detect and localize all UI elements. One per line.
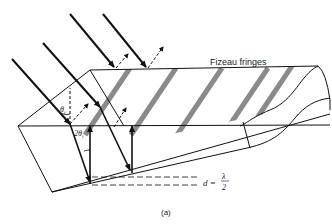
fizeau-wedge-diagram: Fizeau fringes θi 2θi d = λ 2 (a) <box>0 0 332 224</box>
fringes-label: Fizeau fringes <box>210 57 267 67</box>
spacing-numerator: λ <box>221 172 226 181</box>
figure-caption: (a) <box>161 208 171 217</box>
theta-i-label: θi <box>60 105 66 115</box>
spacing-denominator: 2 <box>222 183 226 192</box>
transmitted-rays <box>70 107 130 182</box>
spacing-lines <box>92 177 200 185</box>
two-theta-label: 2θi <box>74 129 84 139</box>
fizeau-fringes <box>85 60 296 135</box>
spacing-equation: d = <box>203 178 216 188</box>
glass-wedge <box>18 66 330 192</box>
